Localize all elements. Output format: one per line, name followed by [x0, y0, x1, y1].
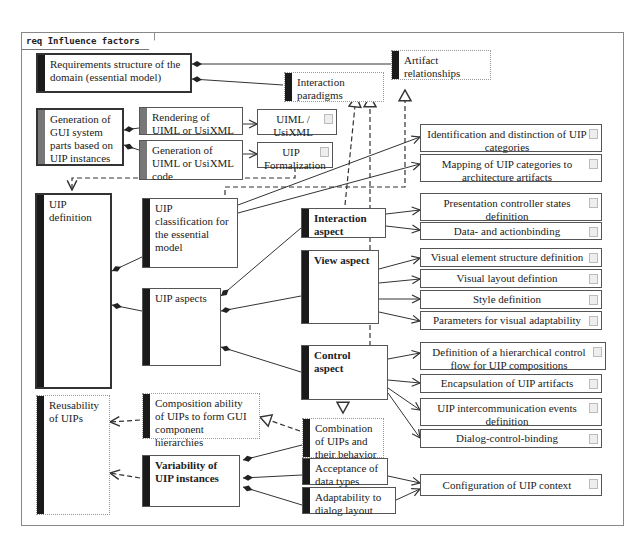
node-label: Generation of GUI system parts based on … — [50, 113, 113, 164]
node-label: Presentation controller states definitio… — [443, 197, 570, 222]
node-label: UIP aspects — [155, 292, 207, 304]
node-label: Style definition — [473, 293, 541, 305]
node-label: Encapsulation of UIP artifacts — [441, 377, 573, 389]
node-label: View aspect — [314, 254, 370, 266]
node-label: UIP classification for the essential mod… — [155, 202, 229, 253]
node-configuration[interactable]: Configuration of UIP context — [420, 474, 602, 496]
node-label: Configuration of UIP context — [443, 479, 572, 491]
node-label: Mapping of UIP categories to architectur… — [442, 158, 572, 183]
element-icon — [589, 434, 598, 444]
node-label: Dialog-control-binding — [456, 432, 558, 444]
element-icon — [589, 295, 598, 305]
node-interaction-aspect[interactable]: Interaction aspect — [301, 208, 386, 238]
element-icon — [593, 347, 602, 357]
node-adaptability[interactable]: Adaptability to dialog layout — [302, 487, 396, 514]
node-label: Variability of UIP instances — [155, 459, 219, 484]
node-view-aspect[interactable]: View aspect — [301, 250, 379, 324]
element-icon — [320, 147, 329, 157]
node-requirements-structure[interactable]: Requirements structure of the domain (es… — [36, 53, 192, 93]
node-encapsulation[interactable]: Encapsulation of UIP artifacts — [420, 374, 602, 393]
node-uip-formalization[interactable]: UIP Formalization — [257, 142, 333, 168]
node-label: Acceptance of data types — [315, 462, 378, 487]
node-label: Artifact relationships — [404, 54, 460, 79]
node-intercommunication[interactable]: UIP intercommunication events definition — [420, 398, 602, 426]
node-uip-aspects[interactable]: UIP aspects — [142, 288, 221, 366]
node-control-aspect[interactable]: Control aspect — [301, 345, 388, 400]
node-label: UIP Formalization — [264, 146, 326, 171]
node-composition-ability[interactable]: Composition ability of UIPs to form GUI … — [142, 393, 260, 439]
node-variability[interactable]: Variability of UIP instances — [142, 455, 240, 507]
node-uip-classification[interactable]: UIP classification for the essential mod… — [142, 198, 238, 268]
element-icon — [324, 114, 333, 124]
node-label: Generation of UIML or UsiXML code — [152, 144, 234, 182]
element-icon — [589, 403, 598, 413]
node-label: Interaction paradigms — [297, 76, 345, 101]
element-icon — [589, 227, 598, 237]
node-style-definition[interactable]: Style definition — [420, 290, 602, 309]
element-icon — [589, 159, 598, 169]
node-render-tools[interactable]: UIML / UsiXML render tools — [257, 109, 337, 135]
element-icon — [589, 198, 598, 208]
node-identification[interactable]: Identification and distinction of UIP ca… — [420, 124, 602, 152]
node-interaction-paradigms[interactable]: Interaction paradigms — [284, 72, 384, 102]
node-dialog-control[interactable]: Dialog-control-binding — [420, 429, 602, 448]
element-icon — [589, 379, 598, 389]
node-combination[interactable]: Combination of UIPs and their behavior — [302, 418, 384, 458]
node-label: Visual layout defintion — [457, 272, 558, 284]
node-mapping[interactable]: Mapping of UIP categories to architectur… — [420, 154, 602, 182]
element-icon — [589, 274, 598, 284]
node-rendering-uiml[interactable]: Rendering of UIML or UsiXML code — [139, 107, 243, 135]
node-label: UIP definition — [49, 198, 92, 223]
node-label: Interaction aspect — [314, 212, 367, 237]
node-label: Definition of a hierarchical control flo… — [432, 346, 585, 371]
node-uip-definition[interactable]: UIP definition — [35, 193, 112, 389]
node-label: Combination of UIPs and their behavior — [315, 422, 376, 460]
element-icon — [589, 479, 598, 489]
node-label: Control aspect — [314, 349, 350, 374]
node-acceptance[interactable]: Acceptance of data types — [302, 458, 388, 485]
node-label: Requirements structure of the domain (es… — [50, 58, 180, 83]
node-label: UIP intercommunication events definition — [437, 402, 577, 427]
node-visual-layout[interactable]: Visual layout defintion — [420, 269, 602, 288]
node-label: Reusability of UIPs — [49, 399, 99, 424]
node-label: Parameters for visual adaptability — [433, 314, 581, 326]
node-generation-gui[interactable]: Generation of GUI system parts based on … — [36, 108, 124, 166]
node-visual-element[interactable]: Visual element structure definition — [420, 248, 602, 267]
node-reusability[interactable]: Reusability of UIPs — [36, 395, 110, 515]
node-label: Identification and distinction of UIP ca… — [427, 128, 586, 153]
node-label: Data- and actionbinding — [454, 225, 560, 237]
element-icon — [589, 129, 598, 139]
node-hierarchical-control[interactable]: Definition of a hierarchical control flo… — [420, 342, 606, 370]
node-label: Adaptability to dialog layout — [315, 491, 381, 516]
node-parameters-visual[interactable]: Parameters for visual adaptability — [420, 311, 602, 330]
node-presentation-controller[interactable]: Presentation controller states definitio… — [420, 193, 602, 221]
element-icon — [589, 316, 598, 326]
node-artifact-relationships[interactable]: Artifact relationships — [391, 50, 491, 80]
element-icon — [589, 253, 598, 263]
node-data-actionbinding[interactable]: Data- and actionbinding — [420, 222, 602, 240]
node-label: Visual element structure definition — [431, 251, 583, 263]
node-generation-uiml[interactable]: Generation of UIML or UsiXML code — [139, 140, 243, 180]
